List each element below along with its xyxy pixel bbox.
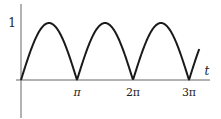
x-axis-label: t bbox=[205, 64, 210, 78]
chart-canvas: 1 π 2π 3π t bbox=[0, 0, 221, 119]
x-tick-label-3pi: 3π bbox=[182, 86, 196, 99]
x-tick-label-2pi: 2π bbox=[126, 86, 140, 99]
x-tick-label-pi: π bbox=[72, 86, 81, 99]
abs-sine-curve bbox=[21, 23, 199, 80]
y-tick-label-1: 1 bbox=[8, 16, 16, 30]
